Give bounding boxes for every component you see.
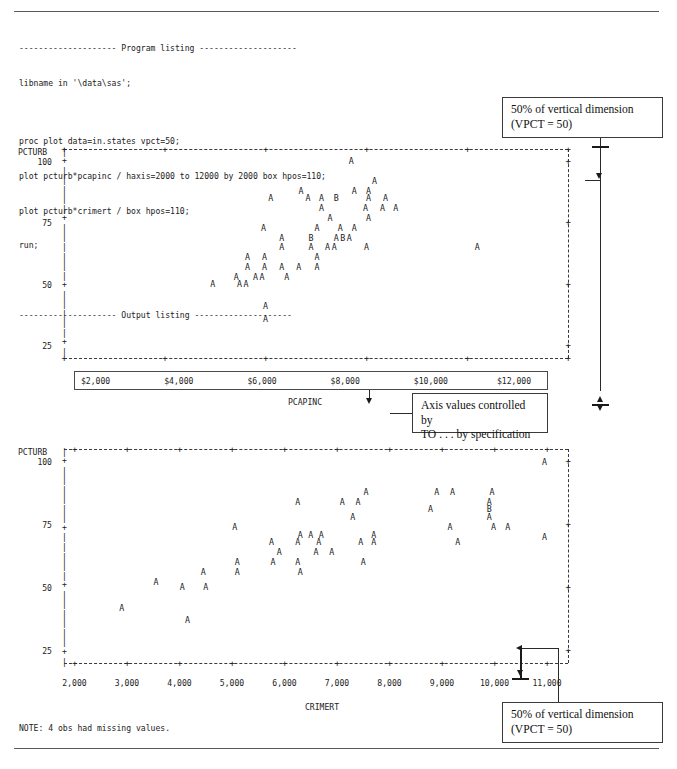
plot2-data-points: AAAAAAAAAABAAAAAAAAAAAAAAAAAAAAAAAAAAAAA…: [0, 440, 600, 675]
annotation-axis-values-leader: [390, 413, 412, 414]
plot-data-point: A: [203, 583, 208, 591]
annotation-bottom-right-line2: (VPCT = 50): [511, 723, 654, 738]
plot-data-point: A: [489, 488, 494, 496]
plot-data-point: A: [263, 302, 268, 310]
plot-data-point: A: [366, 214, 371, 222]
plot-data-point: A: [434, 488, 439, 496]
plot1-span-arrow-stem: [585, 180, 601, 181]
plot-data-point: A: [356, 498, 361, 506]
plot-data-point: A: [314, 548, 319, 556]
plot-data-point: A: [361, 558, 366, 566]
plot-data-point: A: [153, 578, 158, 586]
plot2-x-tick-label: 7,000: [325, 678, 349, 688]
plot2-x-tick-label: 4,000: [167, 678, 191, 688]
plot-data-point: A: [350, 513, 355, 521]
annotation-axis-values: Axis values controlled by TO . . . by sp…: [412, 393, 548, 433]
plot-data-point: A: [269, 538, 274, 546]
plot-data-point: A: [319, 194, 324, 202]
plot-pcapinc: PCTURB 100755025 | + | | | | | + | | | |…: [0, 140, 600, 380]
plot-data-point: A: [328, 214, 333, 222]
page-bottom-rule: [14, 748, 659, 749]
page-top-rule: [14, 11, 659, 12]
plot-data-point: A: [315, 224, 320, 232]
plot-data-point: A: [475, 243, 480, 251]
plot-data-point: A: [505, 523, 510, 531]
plot-data-point: A: [329, 548, 334, 556]
plot-data-point: A: [237, 280, 242, 288]
plot-data-point: A: [338, 224, 343, 232]
plot-data-point: A: [363, 204, 368, 212]
plot2-span-bottom-cap: [512, 678, 529, 680]
annotation-bottom-right-leader: [558, 648, 559, 702]
plot1-x-tick-label: $6,000: [247, 376, 276, 386]
plot-data-point: A: [235, 568, 240, 576]
plot-data-point: A: [372, 177, 377, 185]
plot-data-point: A: [352, 187, 357, 195]
plot-data-point: A: [243, 280, 248, 288]
plot-data-point: A: [263, 315, 268, 323]
plot-data-point: A: [363, 488, 368, 496]
plot-data-point: A: [316, 538, 321, 546]
plot-crimert: PCTURB 100755025 | + | | | | | | + | | |…: [0, 440, 600, 675]
plot-data-point: A: [279, 243, 284, 251]
plot-data-point: A: [260, 273, 265, 281]
plot-data-point: A: [185, 616, 190, 624]
plot2-x-tick-label: 2,000: [62, 678, 86, 688]
plot1-x-axis-value-box: $2,000$4,000$6,000$8,000$10,000$12,000: [74, 371, 548, 390]
plot-data-point: A: [180, 583, 185, 591]
plot-data-point: A: [298, 187, 303, 195]
plot-data-point: A: [277, 548, 282, 556]
plot-data-point: A: [295, 558, 300, 566]
plot2-span-arrow: [517, 670, 523, 676]
plot1-span-top-arrow: [596, 173, 602, 179]
plot-gap-arrow-down: [597, 405, 603, 411]
plot2-x-tick-label: 5,000: [220, 678, 244, 688]
page-root: -------------------- Program listing ---…: [0, 0, 677, 769]
program-listing-header: -------------------- Program listing ---…: [19, 43, 326, 55]
plot-data-point: A: [542, 533, 547, 541]
plot-data-point: A: [284, 273, 289, 281]
plot-data-point: A: [295, 498, 300, 506]
plot-data-point: A: [262, 253, 267, 261]
plot-data-point: B: [340, 233, 345, 241]
plot-gap-arrow-up: [597, 396, 603, 402]
plot-data-point: A: [393, 204, 398, 212]
plot-data-point: A: [358, 538, 363, 546]
plot-data-point: B: [334, 194, 339, 202]
plot-data-point: B: [308, 233, 313, 241]
missing-values-note: NOTE: 4 obs had missing values.: [19, 723, 170, 733]
plot-data-point: A: [364, 243, 369, 251]
plot-data-point: A: [245, 253, 250, 261]
plot-data-point: A: [366, 194, 371, 202]
plot-data-point: A: [383, 194, 388, 202]
plot-data-point: A: [455, 538, 460, 546]
plot-data-point: A: [491, 523, 496, 531]
plot-data-point: A: [295, 538, 300, 546]
plot-data-point: A: [349, 157, 354, 165]
annotation-top-right-line1: 50% of vertical dimension: [511, 103, 654, 118]
annotation-top-right-line2: (VPCT = 50): [511, 118, 654, 133]
plot-data-point: A: [487, 513, 492, 521]
plot-data-point: A: [210, 280, 215, 288]
annotation-bottom-right-top-stem: [520, 648, 559, 649]
plot-data-point: A: [268, 194, 273, 202]
annotation-bottom-right: 50% of vertical dimension (VPCT = 50): [502, 702, 663, 743]
plot-data-point: A: [332, 243, 337, 251]
plot1-x-tick-label: $4,000: [164, 376, 193, 386]
plot1-x-tick-label: $8,000: [331, 376, 360, 386]
plot-data-point: A: [315, 263, 320, 271]
plot-data-point: A: [334, 233, 339, 241]
plot-data-point: A: [296, 263, 301, 271]
plot1-x-tick-label: $10,000: [414, 376, 448, 386]
plot-data-point: A: [253, 273, 258, 281]
plot-data-point: A: [340, 498, 345, 506]
plot-data-point: A: [347, 233, 352, 241]
plot-data-point: A: [308, 530, 313, 538]
plot-data-point: A: [352, 224, 357, 232]
plot-data-point: A: [325, 243, 330, 251]
plot-data-point: A: [119, 603, 124, 611]
plot-data-point: A: [201, 568, 206, 576]
plot-data-point: A: [380, 204, 385, 212]
code-line-0: libname in '\data\sas';: [19, 78, 326, 90]
plot2-x-tick-label: 3,000: [115, 678, 139, 688]
